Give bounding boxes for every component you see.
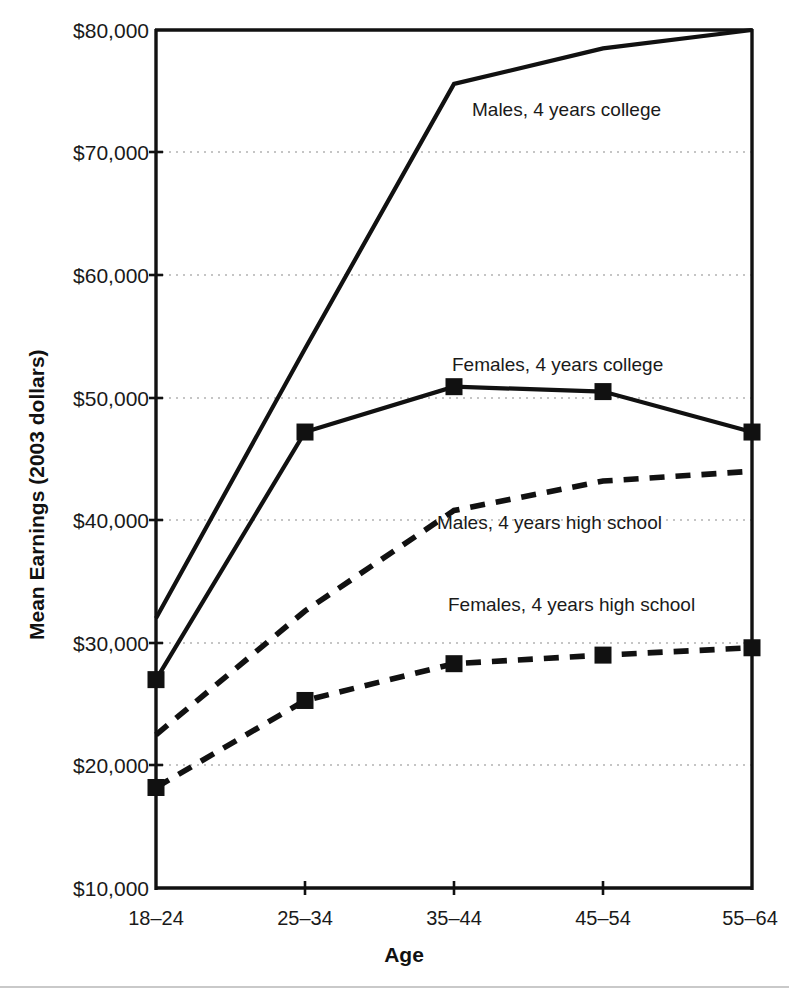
- data-point-marker: [446, 655, 463, 672]
- y-axis-title: Mean Earnings (2003 dollars): [26, 349, 47, 640]
- data-point-marker: [148, 779, 165, 796]
- page-bottom-rule: [0, 986, 789, 988]
- data-point-marker: [595, 383, 612, 400]
- series-annotation-females-high-school: Females, 4 years high school: [448, 595, 695, 614]
- series-line-females-4-years-college: [156, 387, 752, 680]
- ytick-label-40000: $40,000: [73, 510, 149, 531]
- ytick-label-60000: $60,000: [73, 265, 149, 286]
- earnings-by-age-chart: $80,000 $70,000 $60,000 $50,000 $40,000 …: [0, 0, 789, 994]
- series-markers: [148, 378, 761, 796]
- data-point-marker: [297, 692, 314, 709]
- ytick-label-50000: $50,000: [73, 388, 149, 409]
- x-axis-title: Age: [354, 944, 454, 965]
- data-point-marker: [148, 671, 165, 688]
- ytick-label-70000: $70,000: [73, 142, 149, 163]
- series-annotation-males-high-school: Males, 4 years high school: [437, 513, 662, 532]
- xtick-label-45-54: 45–54: [553, 908, 653, 928]
- ytick-label-30000: $30,000: [73, 633, 149, 654]
- data-point-marker: [744, 424, 761, 441]
- ytick-label-20000: $20,000: [73, 755, 149, 776]
- ytick-label-10000: $10,000: [73, 878, 149, 899]
- series-annotation-females-college: Females, 4 years college: [452, 355, 663, 374]
- xtick-label-18-24: 18–24: [106, 908, 206, 928]
- ytick-label-80000: $80,000: [73, 20, 149, 41]
- series-lines: [156, 30, 752, 787]
- data-point-marker: [595, 647, 612, 664]
- xtick-label-55-64: 55–64: [700, 908, 789, 928]
- data-point-marker: [297, 424, 314, 441]
- data-point-marker: [744, 639, 761, 656]
- xtick-label-25-34: 25–34: [255, 908, 355, 928]
- series-annotation-males-college: Males, 4 years college: [472, 100, 661, 119]
- data-point-marker: [446, 378, 463, 395]
- xtick-label-35-44: 35–44: [404, 908, 504, 928]
